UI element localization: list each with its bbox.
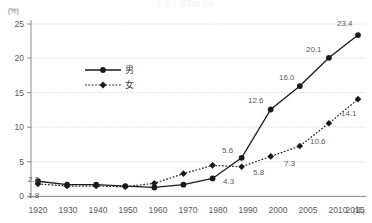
- data-label-male-1990: 5.6: [222, 147, 233, 155]
- data-point-male: [239, 155, 245, 161]
- data-point-male: [268, 107, 274, 113]
- line-chart: 生涯未婚率の推移 (%) 25 20 15 10 5 0: [0, 0, 372, 223]
- data-point-male: [93, 182, 99, 188]
- data-label-female-1920: 1.8: [28, 192, 39, 200]
- data-point-male: [326, 55, 332, 61]
- legend-marker-male: [100, 67, 106, 73]
- data-label-female-2010: 10.6: [310, 138, 326, 146]
- x-axis-unit-label: (年): [353, 207, 365, 215]
- data-point-male: [151, 185, 157, 191]
- data-point-female: [297, 143, 304, 150]
- data-label-male-2010: 20.1: [306, 46, 322, 54]
- data-label-female-2005: 7.3: [284, 160, 295, 168]
- data-point-female: [209, 162, 216, 169]
- data-point-male: [210, 176, 216, 182]
- data-point-female: [326, 120, 333, 127]
- data-label-female-2000: 5.8: [253, 169, 264, 177]
- data-point-male: [181, 182, 187, 188]
- legend-label-male: 男: [125, 66, 134, 75]
- data-point-male: [297, 83, 303, 89]
- data-point-female: [238, 163, 245, 170]
- legend-glyphs: [85, 67, 121, 88]
- data-label-male-2015: 23.4: [337, 20, 353, 28]
- data-label-female-2015: 14.1: [341, 110, 357, 118]
- data-point-female: [267, 153, 274, 160]
- data-point-male: [122, 183, 128, 189]
- data-label-male-2000: 12.6: [248, 97, 264, 105]
- legend-label-female: 女: [125, 81, 134, 90]
- plot-area: [0, 0, 372, 223]
- data-point-male: [355, 32, 361, 38]
- data-point-female: [355, 96, 362, 103]
- data-label-male-1920: 2.2: [28, 176, 39, 184]
- y-tick-marks: [27, 24, 31, 196]
- data-label-male-2005: 16.0: [279, 74, 295, 82]
- legend-marker-female: [100, 82, 107, 89]
- series-markers-male: [35, 32, 361, 190]
- data-label-female-1990: 4.3: [223, 178, 234, 186]
- data-point-female: [180, 170, 187, 177]
- data-point-male: [64, 182, 70, 188]
